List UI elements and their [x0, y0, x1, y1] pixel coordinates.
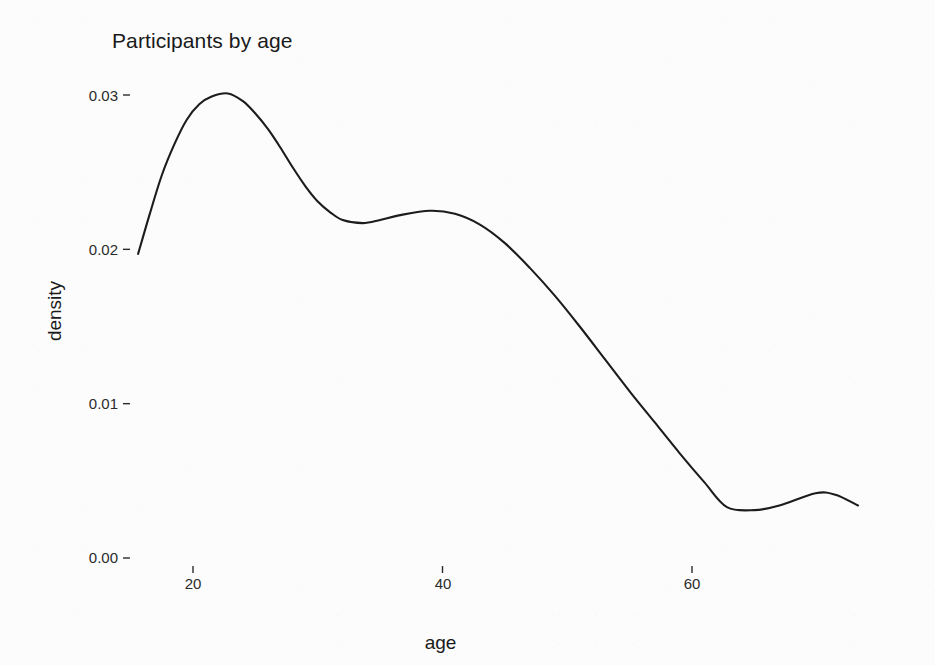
density-curve	[138, 93, 858, 510]
plot-canvas	[0, 0, 935, 665]
tick-marks	[123, 95, 692, 573]
density-plot-figure: Participants by age 0.03 0.02 0.01 0.00 …	[0, 0, 935, 665]
